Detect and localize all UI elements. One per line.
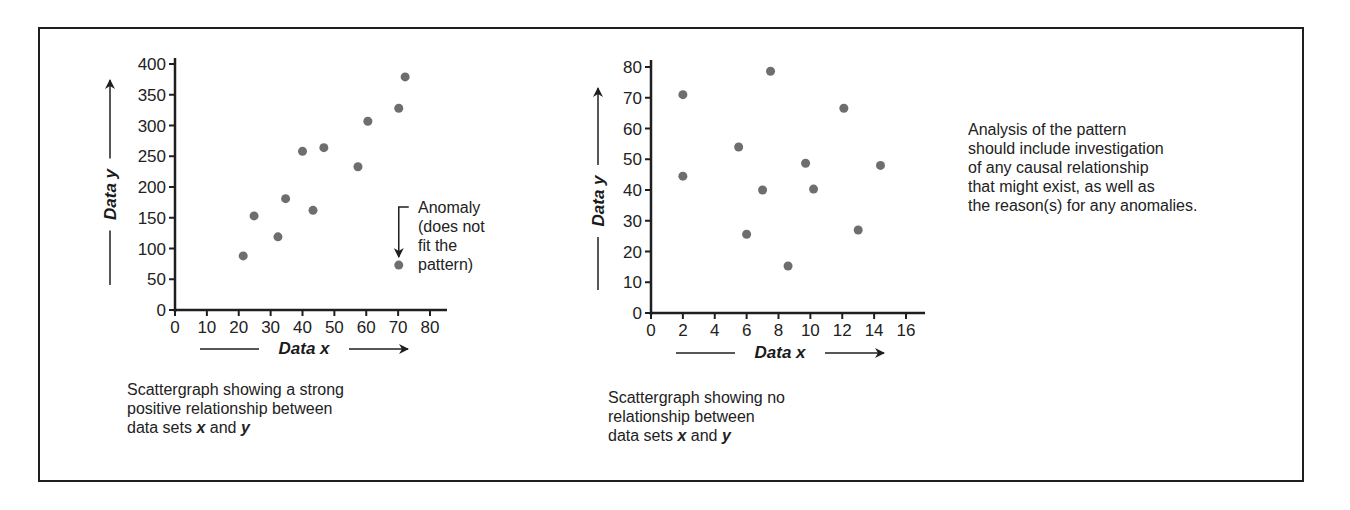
y-tick-label: 200 — [138, 178, 166, 197]
caption-text: and — [205, 419, 241, 436]
data-point — [766, 67, 775, 76]
x-tick-label: 50 — [325, 318, 344, 337]
caption-var-y: y — [241, 419, 250, 436]
caption-line: Scattergraph showing no — [608, 388, 785, 407]
data-point — [363, 117, 372, 126]
caption-line: positive relationship between — [127, 399, 344, 418]
caption-var-x: x — [196, 419, 205, 436]
data-point — [678, 172, 687, 181]
note-line: Analysis of the pattern — [968, 120, 1197, 139]
y-tick-label: 30 — [623, 212, 642, 231]
caption-text: and — [686, 427, 722, 444]
x-tick-label: 80 — [421, 318, 440, 337]
y-tick-label: 100 — [138, 240, 166, 259]
x-tick-label: 60 — [357, 318, 376, 337]
data-point — [309, 206, 318, 215]
data-point — [353, 162, 362, 171]
x-tick-label: 0 — [170, 318, 179, 337]
x-tick-label: 10 — [197, 318, 216, 337]
caption-line: Scattergraph showing a strong — [127, 380, 344, 399]
x-tick-label: 8 — [774, 321, 783, 340]
data-point — [239, 251, 248, 260]
x-axis-label: Data x — [278, 339, 331, 358]
y-tick-label: 0 — [157, 301, 166, 320]
y-tick-label: 80 — [623, 58, 642, 77]
data-point — [854, 225, 863, 234]
caption-line: data sets x and y — [608, 426, 785, 445]
analysis-note: Analysis of the pattern should include i… — [968, 120, 1197, 215]
caption-positive: Scattergraph showing a strong positive r… — [127, 380, 344, 437]
x-tick-label: 4 — [710, 321, 719, 340]
data-point — [784, 261, 793, 270]
data-point — [298, 147, 307, 156]
x-tick-label: 16 — [897, 321, 916, 340]
y-tick-label: 60 — [623, 120, 642, 139]
note-line: of any causal relationship — [968, 158, 1197, 177]
y-tick-label: 10 — [623, 273, 642, 292]
scatter-chart-positive: 0102030405060708005010015020025030035040… — [101, 55, 447, 358]
y-tick-label: 300 — [138, 117, 166, 136]
caption-var-x: x — [677, 427, 686, 444]
y-tick-label: 50 — [623, 150, 642, 169]
caption-none: Scattergraph showing no relationship bet… — [608, 388, 785, 445]
y-axis-label: Data y — [101, 167, 120, 220]
scatter-chart-none: 024681012141601020304050607080Data xData… — [589, 58, 925, 362]
anomaly-line: Anomaly — [418, 198, 485, 217]
y-tick-label: 70 — [623, 89, 642, 108]
y-tick-label: 150 — [138, 209, 166, 228]
data-point — [394, 104, 403, 113]
y-tick-label: 0 — [633, 304, 642, 323]
data-point — [281, 194, 290, 203]
x-tick-label: 10 — [801, 321, 820, 340]
data-point — [734, 142, 743, 151]
y-tick-label: 50 — [147, 270, 166, 289]
data-point — [876, 161, 885, 170]
y-tick-label: 20 — [623, 243, 642, 262]
note-line: should include investigation — [968, 139, 1197, 158]
anomaly-point — [394, 261, 403, 270]
y-tick-label: 400 — [138, 55, 166, 74]
anomaly-line: fit the — [418, 236, 485, 255]
data-point — [678, 90, 687, 99]
y-tick-label: 40 — [623, 181, 642, 200]
anomaly-line: (does not — [418, 217, 485, 236]
data-point — [742, 230, 751, 239]
caption-line: relationship between — [608, 407, 785, 426]
data-point — [319, 143, 328, 152]
note-line: the reason(s) for any anomalies. — [968, 196, 1197, 215]
caption-var-y: y — [722, 427, 731, 444]
data-point — [401, 72, 410, 81]
x-tick-label: 12 — [833, 321, 852, 340]
anomaly-line: pattern) — [418, 255, 485, 274]
caption-text: data sets — [608, 427, 677, 444]
data-point — [809, 185, 818, 194]
y-tick-label: 250 — [138, 147, 166, 166]
data-point — [839, 104, 848, 113]
x-tick-label: 6 — [742, 321, 751, 340]
x-tick-label: 30 — [261, 318, 280, 337]
data-point — [250, 211, 259, 220]
x-axis-label: Data x — [754, 343, 807, 362]
caption-text: data sets — [127, 419, 196, 436]
anomaly-annotation: Anomaly (does not fit the pattern) — [418, 198, 485, 274]
x-tick-label: 20 — [229, 318, 248, 337]
y-tick-label: 350 — [138, 86, 166, 105]
note-line: that might exist, as well as — [968, 177, 1197, 196]
x-tick-label: 0 — [646, 321, 655, 340]
caption-line: data sets x and y — [127, 418, 344, 437]
anomaly-arrow-icon — [399, 207, 409, 257]
x-tick-label: 70 — [389, 318, 408, 337]
data-point — [273, 232, 282, 241]
data-point — [758, 186, 767, 195]
x-tick-label: 40 — [293, 318, 312, 337]
x-tick-label: 14 — [865, 321, 884, 340]
y-axis-label: Data y — [589, 174, 608, 227]
data-point — [801, 159, 810, 168]
x-tick-label: 2 — [678, 321, 687, 340]
